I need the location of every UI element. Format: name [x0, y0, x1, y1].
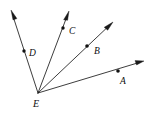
arrow-head-ed: [11, 10, 17, 20]
arrow-head-ec: [64, 11, 69, 20]
arrow-head-ea: [135, 61, 144, 65]
ray-group-ec: C: [38, 11, 76, 93]
vertex-group-e: E: [32, 98, 39, 109]
ray-line-ec: [38, 18, 66, 93]
point-label-d: D: [28, 48, 36, 58]
point-label-c: C: [69, 26, 76, 36]
ray-line-eb: [38, 27, 108, 93]
point-dot-c: [61, 26, 64, 29]
geometry-canvas: D C B A E: [0, 0, 149, 113]
point-label-b: B: [94, 46, 100, 56]
geometry-figure: D C B A E: [0, 0, 149, 113]
ray-group-ed: D: [11, 10, 38, 93]
ray-group-ea: A: [38, 61, 144, 93]
point-dot-d: [22, 49, 25, 52]
vertex-label-e: E: [32, 98, 39, 109]
point-dot-a: [116, 69, 120, 73]
ray-group-eb: B: [38, 22, 113, 93]
point-dot-b: [85, 44, 89, 48]
point-label-a: A: [119, 76, 126, 86]
